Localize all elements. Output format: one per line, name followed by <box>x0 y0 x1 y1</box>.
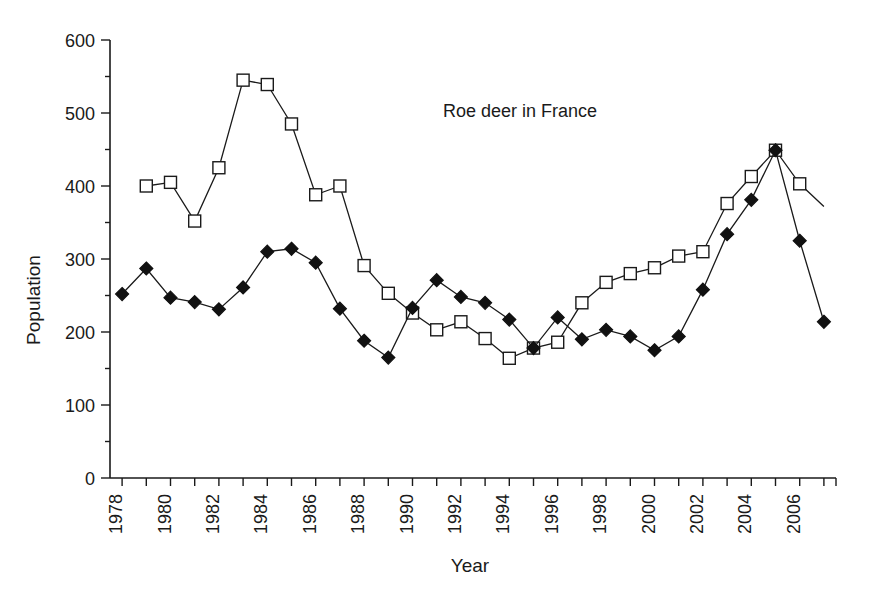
y-axis-tick-label: 0 <box>85 469 95 489</box>
y-axis-tick-label: 500 <box>65 104 95 124</box>
data-point-open-square <box>503 352 515 364</box>
y-axis-tick-label: 300 <box>65 250 95 270</box>
data-point-open-square <box>673 250 685 262</box>
x-axis-tick-label: 1984 <box>251 494 271 534</box>
data-point-open-square <box>649 262 661 274</box>
data-point-open-square <box>431 324 443 336</box>
y-axis-label: Population <box>23 255 44 345</box>
data-point-open-square <box>286 118 298 130</box>
x-axis-tick-label: 1992 <box>445 494 465 534</box>
data-point-open-square <box>624 268 636 280</box>
data-point-open-square <box>794 178 806 190</box>
x-axis-tick-label: 1994 <box>493 494 513 534</box>
data-point-open-square <box>576 297 588 309</box>
x-axis-tick-label: 1990 <box>397 494 417 534</box>
data-point-open-square <box>189 215 201 227</box>
data-point-open-square <box>358 260 370 272</box>
data-point-open-square <box>552 336 564 348</box>
data-point-open-square <box>455 316 467 328</box>
data-point-open-square <box>310 189 322 201</box>
y-axis-tick-label: 200 <box>65 323 95 343</box>
data-point-open-square <box>745 171 757 183</box>
x-axis-tick-label: 1978 <box>106 494 126 534</box>
x-axis-tick-label: 1988 <box>348 494 368 534</box>
data-point-open-square <box>721 198 733 210</box>
data-point-open-square <box>165 176 177 188</box>
y-axis-tick-label: 600 <box>65 31 95 51</box>
data-point-open-square <box>237 74 249 86</box>
data-point-open-square <box>479 333 491 345</box>
chart-title: Roe deer in France <box>443 101 597 121</box>
x-axis-tick-label: 2000 <box>639 494 659 534</box>
x-axis-tick-label: 1996 <box>542 494 562 534</box>
data-point-open-square <box>382 287 394 299</box>
x-axis-tick-label: 2006 <box>784 494 804 534</box>
data-point-open-square <box>334 180 346 192</box>
data-point-open-square <box>213 162 225 174</box>
data-point-open-square <box>261 79 273 91</box>
data-point-open-square <box>600 276 612 288</box>
x-axis-tick-label: 1982 <box>203 494 223 534</box>
x-axis-tick-label: 1998 <box>590 494 610 534</box>
roe-deer-population-line-chart: 0100200300400500600 19781980198219841986… <box>0 0 874 600</box>
y-axis-tick-label: 100 <box>65 396 95 416</box>
y-axis-tick-label: 400 <box>65 177 95 197</box>
x-axis-label: Year <box>451 555 490 576</box>
x-axis-tick-label: 1986 <box>300 494 320 534</box>
data-point-open-square <box>697 246 709 258</box>
data-point-open-square <box>140 180 152 192</box>
chart-figure: 0100200300400500600 19781980198219841986… <box>0 0 874 600</box>
x-axis-tick-label: 2004 <box>735 494 755 534</box>
x-axis-tick-label: 1980 <box>155 494 175 534</box>
x-axis-tick-label: 2002 <box>687 494 707 534</box>
